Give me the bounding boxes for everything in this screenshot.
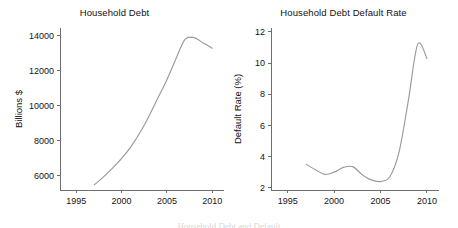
x-tick-label: 1995 (278, 196, 298, 206)
x-tick-label: 1995 (66, 196, 86, 206)
panel-household-debt-default-rate: Household Debt Default Rate 246810121995… (229, 0, 458, 228)
plot-area-right: 246810121995200020052010Default Rate (%) (229, 0, 458, 228)
y-tick-label: 14000 (29, 31, 54, 41)
x-tick-label: 2010 (417, 196, 437, 206)
x-tick-label: 2005 (157, 196, 177, 206)
y-tick-label: 10000 (29, 101, 54, 111)
panel-household-debt: Household Debt 6000800010000120001400019… (0, 0, 229, 228)
data-series-line (94, 37, 212, 185)
figure-two-panel-line-charts: Household Debt 6000800010000120001400019… (0, 0, 458, 228)
y-tick-label: 2 (260, 183, 265, 193)
x-tick-label: 2005 (371, 196, 391, 206)
y-tick-label: 8 (260, 89, 265, 99)
data-series-line (306, 43, 427, 182)
y-axis-label: Default Rate (%) (232, 74, 243, 144)
y-tick-label: 6000 (34, 171, 54, 181)
plot-area-left: 600080001000012000140001995200020052010B… (0, 0, 229, 228)
y-tick-label: 12 (255, 27, 265, 37)
x-tick-label: 2000 (112, 196, 132, 206)
y-axis-label: Billions $ (13, 89, 24, 128)
y-tick-label: 8000 (34, 136, 54, 146)
y-tick-label: 10 (255, 58, 265, 68)
x-tick-label: 2010 (202, 196, 222, 206)
y-tick-label: 6 (260, 121, 265, 131)
y-tick-label: 12000 (29, 66, 54, 76)
x-tick-label: 2000 (324, 196, 344, 206)
y-tick-label: 4 (260, 152, 265, 162)
